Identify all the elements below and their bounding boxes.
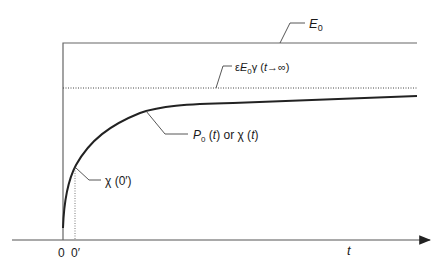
e0-leader [280, 23, 305, 43]
chi0-label: χ (0′) [105, 174, 132, 188]
diagram-canvas: E0 εE0γ (t→∞) P0 (t) or χ (t) χ (0′) 0 0… [0, 0, 441, 270]
curve-label: P0 (t) or χ (t) [193, 128, 258, 144]
asymptote-leader [216, 66, 232, 88]
diagram-svg: E0 εE0γ (t→∞) P0 (t) or χ (t) χ (0′) 0 0… [0, 0, 441, 270]
response-curve [63, 96, 417, 228]
chi0-leader [76, 168, 101, 180]
axis-label-t: t [347, 243, 352, 258]
tick-zero: 0 [58, 246, 65, 260]
e0-label: E0 [309, 16, 323, 33]
asymptote-label: εE0γ (t→∞) [235, 61, 290, 76]
curve-leader [146, 111, 188, 134]
tick-zero-prime: 0′ [71, 246, 81, 260]
